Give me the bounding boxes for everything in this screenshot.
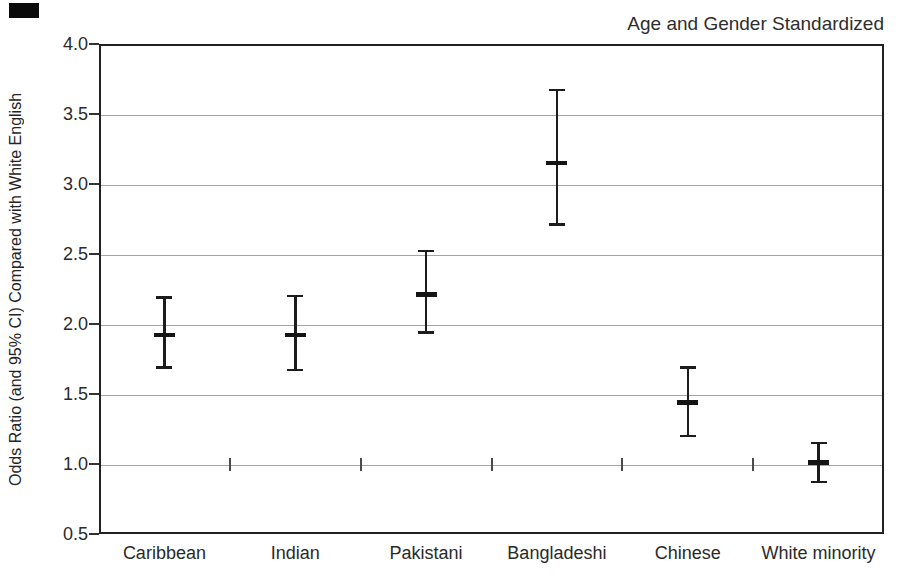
ci-upper-cap-pakistani (418, 250, 434, 253)
y-axis-tick-4.0 (89, 43, 99, 45)
gridline-3.0 (101, 185, 882, 186)
reference-line-tick (229, 458, 231, 471)
ci-upper-cap-indian (287, 295, 303, 298)
y-axis-tick-0.5 (89, 533, 99, 535)
odds-ratio-marker-bangladeshi (546, 161, 567, 166)
gridline-1.5 (101, 395, 882, 396)
ci-upper-cap-bangladeshi (549, 89, 565, 92)
reference-line-tick (491, 458, 493, 471)
gridline-3.5 (101, 115, 882, 116)
ci-lower-cap-indian (287, 369, 303, 372)
odds-ratio-marker-pakistani (416, 292, 437, 297)
y-axis-tick-1.5 (89, 393, 99, 395)
ci-lower-cap-white-minority (811, 481, 827, 484)
y-axis-tick-3.0 (89, 183, 99, 185)
error-bar-line-bangladeshi (556, 90, 559, 224)
reference-line-tick (621, 458, 623, 471)
y-axis-tick-2.0 (89, 323, 99, 325)
x-label-indian: Indian (225, 543, 365, 564)
figure: Age and Gender Standardized Odds Ratio (… (0, 0, 903, 581)
y-tick-label-3.5: 3.5 (38, 104, 88, 124)
x-label-bangladeshi: Bangladeshi (487, 543, 627, 564)
y-tick-label-3.0: 3.0 (38, 174, 88, 194)
reference-line-tick (752, 458, 754, 471)
ci-upper-cap-caribbean (156, 296, 172, 299)
odds-ratio-marker-caribbean (154, 333, 175, 338)
reference-line-tick (360, 458, 362, 471)
y-axis-title: Odds Ratio (and 95% CI) Compared with Wh… (3, 44, 29, 534)
y-tick-label-1.5: 1.5 (38, 384, 88, 404)
ci-upper-cap-white-minority (811, 442, 827, 445)
y-axis-tick-2.5 (89, 253, 99, 255)
x-label-pakistani: Pakistani (356, 543, 496, 564)
ci-lower-cap-pakistani (418, 331, 434, 334)
chart-title: Age and Gender Standardized (627, 13, 884, 35)
gridline-2.0 (101, 325, 882, 326)
y-tick-label-1.0: 1.0 (38, 454, 88, 474)
ci-lower-cap-chinese (680, 435, 696, 438)
y-tick-label-0.5: 0.5 (38, 524, 88, 544)
ci-lower-cap-bangladeshi (549, 223, 565, 226)
ci-lower-cap-caribbean (156, 366, 172, 369)
x-label-white-minority: White minority (749, 543, 889, 564)
y-tick-label-2.5: 2.5 (38, 244, 88, 264)
ci-upper-cap-chinese (680, 366, 696, 369)
scan-artifact-bar (9, 3, 39, 18)
x-label-chinese: Chinese (618, 543, 758, 564)
odds-ratio-marker-white-minority (808, 460, 829, 465)
gridline-2.5 (101, 255, 882, 256)
y-tick-label-2.0: 2.0 (38, 314, 88, 334)
odds-ratio-marker-indian (285, 333, 306, 338)
odds-ratio-marker-chinese (677, 400, 698, 405)
y-axis-tick-3.5 (89, 113, 99, 115)
x-label-caribbean: Caribbean (94, 543, 234, 564)
y-tick-label-4.0: 4.0 (38, 34, 88, 54)
y-axis-tick-1.0 (89, 463, 99, 465)
